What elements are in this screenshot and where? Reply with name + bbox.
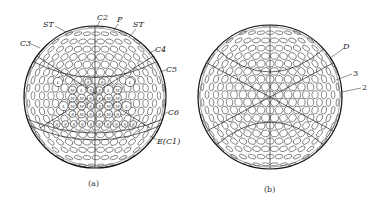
dimple-code-label: S xyxy=(98,88,101,93)
dimple-code-label: S xyxy=(89,104,92,109)
dimple-code-label: L xyxy=(56,80,60,85)
dimple-code-label: S xyxy=(106,122,109,127)
dimple-code-label: L xyxy=(79,88,83,93)
label-c2: C2 xyxy=(97,13,108,22)
dimple-code-label: S xyxy=(89,96,92,101)
sphere-a xyxy=(22,24,166,168)
label-c5: C5 xyxy=(166,65,177,74)
dimple-code-label: M xyxy=(105,104,111,109)
dimple-code-label: L xyxy=(61,104,65,109)
dimple-code-label: S xyxy=(64,122,67,127)
dimple-code-label: S xyxy=(81,122,84,127)
label-d: D xyxy=(342,42,350,51)
dimple-code-label: M xyxy=(105,112,111,117)
dimple-code-label: M xyxy=(114,88,120,93)
dimple-code-label: S xyxy=(101,80,104,85)
dimple-code-label: S xyxy=(98,96,101,101)
label-2: 2 xyxy=(362,83,367,92)
label-c6: C6 xyxy=(168,108,179,117)
label-p: P xyxy=(116,15,123,24)
label-st-right: ST xyxy=(133,20,144,29)
dimple-code-label: S xyxy=(89,88,92,93)
caption-a: (a) xyxy=(88,179,99,188)
dimple-code-label: M xyxy=(69,88,75,93)
dimple-code-label: S xyxy=(87,80,90,85)
dimple-code-label: M xyxy=(69,96,75,101)
label-3: 3 xyxy=(353,69,358,78)
caption-b: (b) xyxy=(264,185,275,194)
dimple-code-label: S xyxy=(132,122,135,127)
dimple-code-label: S xyxy=(123,122,126,127)
label-st-left: ST xyxy=(43,20,54,29)
dimple-code-label: S xyxy=(98,122,101,127)
dimple-code-label: S xyxy=(116,112,119,117)
dimple-code-label: M xyxy=(78,96,84,101)
dimple-code-label: L xyxy=(106,88,110,93)
dimple-code-label: S xyxy=(98,112,101,117)
dimple-code-label: S xyxy=(71,112,74,117)
label-c4: C4 xyxy=(155,45,166,54)
dimple-code-label: S xyxy=(98,104,101,109)
dimple-code-label: L xyxy=(128,80,132,85)
dimple-code-label: L xyxy=(124,104,128,109)
dimple-code-label: S xyxy=(89,112,92,117)
diagram-canvas: LSSLMLSSLMMMSSMMLMMSSMMLSMSSMSSSSSSSSSSS… xyxy=(0,0,384,201)
dimple-code-label: M xyxy=(78,112,84,117)
dimple-code-label: M xyxy=(78,104,84,109)
dimple-code-label: M xyxy=(114,104,120,109)
dimple-code-label: S xyxy=(55,122,58,127)
dimple-code-label: M xyxy=(114,96,120,101)
label-e-c1: E(C1) xyxy=(156,137,180,146)
sphere-b xyxy=(196,23,344,169)
dimple-code-label: M xyxy=(69,104,75,109)
dimple-code-label: S xyxy=(72,122,75,127)
dimple-code-label: S xyxy=(89,122,92,127)
dimple-code-label: S xyxy=(115,122,118,127)
label-c3: C3 xyxy=(20,39,31,48)
dimple-code-label: M xyxy=(105,96,111,101)
